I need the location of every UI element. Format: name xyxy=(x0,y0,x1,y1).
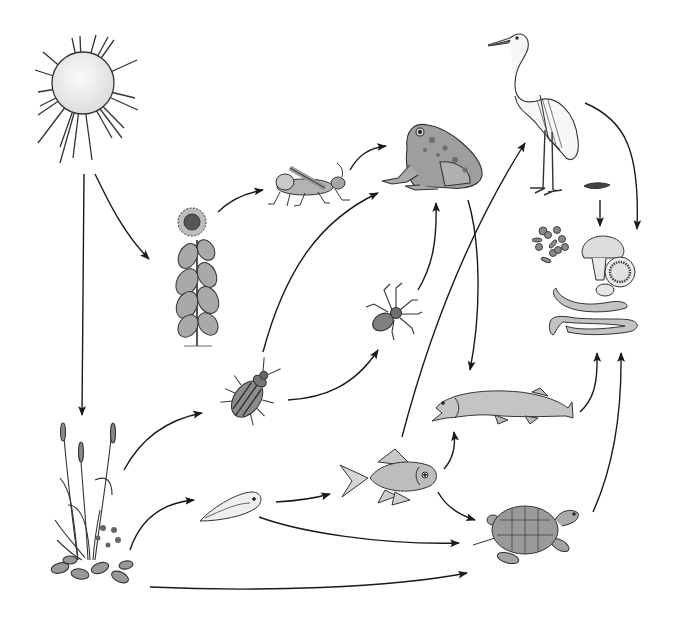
arrow-turtle-to-decomposers xyxy=(593,353,621,512)
arrow-sun-to-sunflower xyxy=(95,174,149,259)
turtle-icon xyxy=(473,506,578,566)
mushroom-icon xyxy=(582,236,635,296)
arrow-heron-to-decomposers xyxy=(585,103,637,229)
arrow-grass-to-tadpole xyxy=(130,500,194,550)
arrow-goldfish-to-pike xyxy=(444,432,455,469)
arrow-grasshopper-to-frog xyxy=(350,146,386,170)
arrow-tadpole-to-turtle xyxy=(259,517,459,543)
arrow-goldfish-to-turtle xyxy=(438,492,475,520)
arrow-grass-to-beetle xyxy=(124,413,202,470)
arrow-tadpole-to-goldfish xyxy=(276,494,330,502)
pike-icon xyxy=(432,388,573,424)
frog-icon xyxy=(382,124,482,190)
bacteria-icon xyxy=(532,227,569,264)
spider-icon xyxy=(366,283,422,340)
food-web-arrows xyxy=(82,103,637,589)
sunflower-icon xyxy=(171,208,223,346)
arrow-sunflower-to-grasshopper xyxy=(218,190,263,212)
beetle-icon xyxy=(216,349,292,429)
grass-icon xyxy=(50,423,134,585)
arrow-grass-to-turtle xyxy=(150,573,467,589)
grasshopper-icon xyxy=(268,163,350,206)
arrow-sun-to-grass xyxy=(82,174,84,415)
fish-icon xyxy=(340,449,436,505)
droppings-icon xyxy=(584,183,610,189)
arrow-pike-to-decomposers xyxy=(580,353,597,412)
arrow-beetle-to-frog xyxy=(263,193,378,352)
arrow-frog-to-pike xyxy=(468,200,478,370)
arrow-beetle-to-spider xyxy=(288,350,378,400)
tadpole-icon xyxy=(200,492,261,521)
worm-icon xyxy=(549,288,637,335)
food-web-diagram: Sun Sunflower xyxy=(0,0,673,617)
heron-icon xyxy=(488,34,578,195)
arrow-spider-to-frog xyxy=(418,203,436,290)
sun-icon xyxy=(35,35,138,163)
